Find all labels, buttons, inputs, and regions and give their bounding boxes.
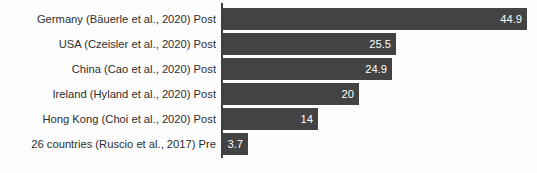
bar-value-label: 44.9 <box>500 8 527 30</box>
category-label: Hong Kong (Choi et al., 2020) Post <box>0 108 216 130</box>
bar-row: China (Cao et al., 2020) Post 24.9 <box>0 58 537 80</box>
bar-value-label: 3.7 <box>227 133 248 155</box>
bar-track: 24.9 <box>223 58 537 80</box>
bar-hong-kong: 14 <box>223 108 318 130</box>
bar-track: 14 <box>223 108 537 130</box>
bar-value-label: 25.5 <box>369 33 396 55</box>
bar-chart: Germany (Bäuerle et al., 2020) Post 44.9… <box>0 0 537 173</box>
category-label: Germany (Bäuerle et al., 2020) Post <box>0 8 216 30</box>
category-label: USA (Czeisler et al., 2020) Post <box>0 33 216 55</box>
bar-value-label: 14 <box>301 108 318 130</box>
category-label: 26 countries (Ruscio et al., 2017) Pre <box>0 133 216 155</box>
bar-track: 25.5 <box>223 33 537 55</box>
bar-ireland: 20 <box>223 83 359 105</box>
bar-germany: 44.9 <box>223 8 527 30</box>
bar-row: 26 countries (Ruscio et al., 2017) Pre 3… <box>0 133 537 155</box>
bar-row: Germany (Bäuerle et al., 2020) Post 44.9 <box>0 8 537 30</box>
bar-value-label: 24.9 <box>365 58 392 80</box>
category-label: Ireland (Hyland et al., 2020) Post <box>0 83 216 105</box>
bar-usa: 25.5 <box>223 33 396 55</box>
bar-track: 44.9 <box>223 8 537 30</box>
bar-row: Hong Kong (Choi et al., 2020) Post 14 <box>0 108 537 130</box>
bar-track: 3.7 <box>223 133 537 155</box>
category-label: China (Cao et al., 2020) Post <box>0 58 216 80</box>
bar-track: 20 <box>223 83 537 105</box>
bar-row: Ireland (Hyland et al., 2020) Post 20 <box>0 83 537 105</box>
bar-rows: Germany (Bäuerle et al., 2020) Post 44.9… <box>0 8 537 158</box>
bar-value-label: 20 <box>342 83 359 105</box>
bar-china: 24.9 <box>223 58 392 80</box>
bar-26-countries: 3.7 <box>223 133 248 155</box>
plot-area: Germany (Bäuerle et al., 2020) Post 44.9… <box>0 0 537 173</box>
bar-row: USA (Czeisler et al., 2020) Post 25.5 <box>0 33 537 55</box>
